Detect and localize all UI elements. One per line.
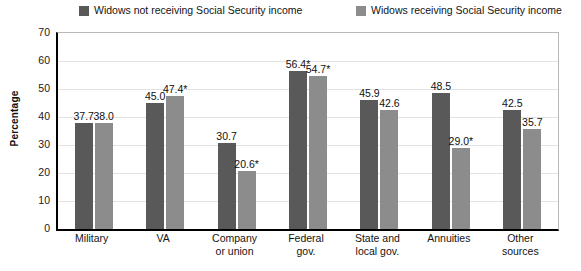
legend-label-series-0: Widows not receiving Social Security inc… [94, 5, 302, 16]
bar-value-label: 30.7 [216, 131, 236, 142]
legend-entry-widows-not-receiving: Widows not receiving Social Security inc… [79, 5, 302, 16]
bar-value-label: 45.9 [359, 88, 379, 99]
y-tick-label: 30 [4, 139, 50, 149]
bar-value-label: 38.0 [93, 111, 113, 122]
bar: 35.7 [523, 129, 541, 229]
legend-swatch-icon-series-0 [79, 6, 89, 16]
bar: 29.0* [452, 148, 470, 229]
legend-entry-widows-receiving: Widows receiving Social Security income [356, 5, 562, 16]
bar-value-label: 42.6 [379, 98, 399, 109]
x-axis-label-line: VA [127, 232, 198, 245]
bar-group: 30.720.6* [218, 33, 256, 229]
bar-value-label: 35.7 [522, 117, 542, 128]
bar-group: 56.4*54.7* [289, 33, 327, 229]
legend-swatch-icon-series-1 [356, 6, 366, 16]
x-axis-label-line: local gov. [342, 245, 413, 258]
bar-group: 45.942.6 [360, 33, 398, 229]
bar-group: 45.047.4* [146, 33, 184, 229]
bar-group: 48.529.0* [432, 33, 470, 229]
bar-chart: Widows not receiving Social Security inc… [0, 0, 581, 271]
x-axis-label: Federalgov. [270, 232, 341, 257]
x-axis-label: Othersources [485, 232, 556, 257]
bar: 47.4* [166, 96, 184, 229]
bar-value-label: 48.5 [431, 81, 451, 92]
bar: 56.4* [289, 71, 307, 229]
bar-value-label: 54.7* [306, 64, 331, 75]
x-axis-label-line: sources [485, 245, 556, 258]
x-axis-labels: MilitaryVACompanyor unionFederalgov.Stat… [56, 232, 556, 270]
x-axis-label-line: Federal [270, 232, 341, 245]
bar-value-label: 42.5 [502, 98, 522, 109]
bar: 45.9 [360, 100, 378, 229]
bar: 45.0 [146, 103, 164, 229]
bar: 42.5 [503, 110, 521, 229]
y-tick-label: 70 [4, 27, 50, 37]
y-axis-ticks: 010203040506070 [0, 32, 50, 228]
y-tick-label: 60 [4, 55, 50, 65]
x-axis-label: Military [56, 232, 127, 245]
legend-label-series-1: Widows receiving Social Security income [371, 5, 562, 16]
plot-area: 37.738.045.047.4*30.720.6*56.4*54.7*45.9… [56, 32, 559, 231]
x-axis-label-line: State and [342, 232, 413, 245]
x-axis-label-line: Company [199, 232, 270, 245]
bar-value-label: 29.0* [449, 136, 474, 147]
y-tick-label: 40 [4, 111, 50, 121]
x-axis-label-line: Other [485, 232, 556, 245]
chart-legend: Widows not receiving Social Security inc… [0, 4, 581, 24]
x-axis-label: VA [127, 232, 198, 245]
x-axis-label-line: Military [56, 232, 127, 245]
bar-value-label: 20.6* [234, 159, 259, 170]
x-axis-label-line: gov. [270, 245, 341, 258]
x-axis-label: Companyor union [199, 232, 270, 257]
x-axis-label-line: or union [199, 245, 270, 258]
bars-layer: 37.738.045.047.4*30.720.6*56.4*54.7*45.9… [58, 33, 558, 229]
bar: 42.6 [380, 110, 398, 229]
bar: 30.7 [218, 143, 236, 229]
bar-group: 42.535.7 [503, 33, 541, 229]
y-tick-label: 20 [4, 167, 50, 177]
bar-value-label: 47.4* [163, 84, 188, 95]
y-tick-label: 50 [4, 83, 50, 93]
bar: 20.6* [238, 171, 256, 229]
bar-group: 37.738.0 [75, 33, 113, 229]
bar: 54.7* [309, 76, 327, 229]
bar: 48.5 [432, 93, 450, 229]
bar: 37.7 [75, 123, 93, 229]
bar: 38.0 [95, 123, 113, 229]
bar-value-label: 37.7 [73, 111, 93, 122]
x-axis-label-line: Annuities [413, 232, 484, 245]
y-tick-label: 10 [4, 195, 50, 205]
x-axis-label: State andlocal gov. [342, 232, 413, 257]
x-axis-label: Annuities [413, 232, 484, 245]
y-tick-label: 0 [4, 223, 50, 233]
